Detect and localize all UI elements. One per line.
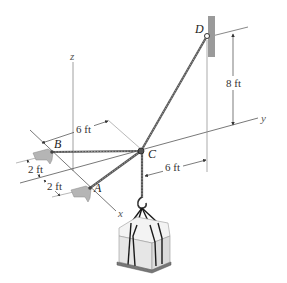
- ring-d: [205, 34, 210, 39]
- point-label-b: B: [54, 137, 62, 151]
- crate: [117, 217, 171, 273]
- hook-icon: [138, 197, 146, 208]
- dimension-6ft-top-label: 6 ft: [76, 123, 91, 135]
- dimension-8ft-label: 8 ft: [226, 77, 241, 89]
- y-axis-label: y: [260, 112, 266, 124]
- dimension-6ft-top-ext: [108, 120, 142, 150]
- dimension-2ft-lower-label: 2 ft: [47, 180, 62, 192]
- cable-diagram: z y x 8 ft 6 ft 6 ft 2 ft 2 ft: [0, 0, 287, 283]
- bracket-a: [71, 186, 91, 202]
- ring-c: [138, 148, 144, 154]
- point-label-d: D: [194, 22, 204, 36]
- z-axis-label: z: [69, 50, 75, 62]
- d-extension-line: [212, 27, 248, 36]
- ring-a: [88, 186, 92, 190]
- bracket-b: [33, 149, 53, 164]
- dimension-6ft-right-label: 6 ft: [165, 161, 180, 173]
- x-axis-label: x: [117, 207, 123, 219]
- point-label-a: A: [93, 181, 102, 195]
- point-label-c: C: [148, 147, 157, 161]
- dimension-2ft-upper-label: 2 ft: [28, 163, 43, 175]
